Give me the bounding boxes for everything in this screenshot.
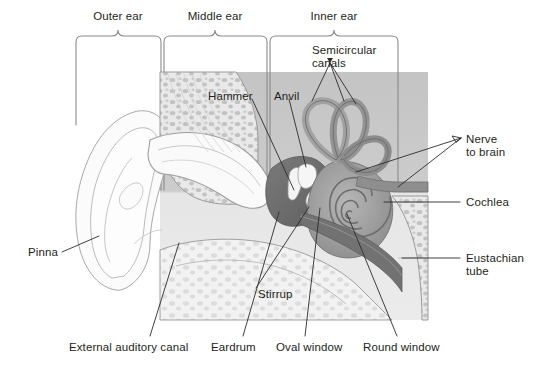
label-hammer: Hammer <box>208 90 253 104</box>
label-eardrum: Eardrum <box>211 341 256 355</box>
label-pinna: Pinna <box>28 246 58 260</box>
label-stirrup: Stirrup <box>258 288 293 302</box>
label-external-auditory-canal: External auditory canal <box>69 341 188 355</box>
bracket-label-middle-ear: Middle ear <box>188 10 243 24</box>
label-semicircular-canals-line1: Semicircular <box>312 44 376 58</box>
label-round-window: Round window <box>363 341 440 355</box>
label-anvil: Anvil <box>274 90 299 104</box>
label-nerve-to-brain-line1: Nerve <box>466 133 497 147</box>
bracket-label-inner-ear: Inner ear <box>311 10 358 24</box>
label-oval-window: Oval window <box>276 341 342 355</box>
bracket-label-outer-ear: Outer ear <box>93 10 142 24</box>
label-nerve-to-brain-line2: to brain <box>466 146 505 160</box>
label-semicircular-canals-line2: canals <box>312 57 346 71</box>
label-eustachian-tube-line2: tube <box>466 265 489 279</box>
ear-anatomy-figure <box>0 0 538 368</box>
label-eustachian-tube-line1: Eustachian <box>466 252 524 266</box>
label-cochlea: Cochlea <box>466 196 509 210</box>
